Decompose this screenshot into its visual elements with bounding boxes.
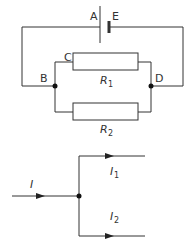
arrow-i1-icon bbox=[105, 153, 114, 159]
label-i2-sub: 2 bbox=[114, 216, 119, 225]
label-i2: I bbox=[110, 210, 113, 223]
wire-left-bus bbox=[55, 62, 73, 112]
label-r2-sub: 2 bbox=[108, 129, 113, 138]
arrow-i2-icon bbox=[105, 233, 114, 239]
label-i1: I bbox=[110, 165, 113, 178]
junction-dot bbox=[77, 194, 82, 199]
label-r1-sub: 1 bbox=[108, 80, 113, 89]
label-b: B bbox=[40, 72, 48, 85]
resistor-r2 bbox=[73, 103, 138, 120]
label-c: C bbox=[64, 51, 72, 64]
diagram-canvas: A E C B D R 1 R 2 I I 1 I 2 bbox=[0, 0, 194, 249]
label-d: D bbox=[155, 72, 163, 85]
wire-top-right bbox=[110, 27, 183, 86]
arrow-i-icon bbox=[36, 193, 45, 199]
label-a: A bbox=[90, 10, 98, 23]
circuit-diagram bbox=[22, 6, 183, 120]
resistor-r1 bbox=[73, 53, 138, 70]
label-r2: R bbox=[100, 123, 108, 136]
node-b-dot bbox=[53, 84, 58, 89]
label-e: E bbox=[112, 10, 119, 23]
label-i: I bbox=[30, 178, 33, 191]
node-d-dot bbox=[149, 84, 154, 89]
label-r1: R bbox=[100, 74, 108, 87]
wire-top-left bbox=[22, 27, 100, 86]
label-i1-sub: 1 bbox=[114, 171, 119, 180]
